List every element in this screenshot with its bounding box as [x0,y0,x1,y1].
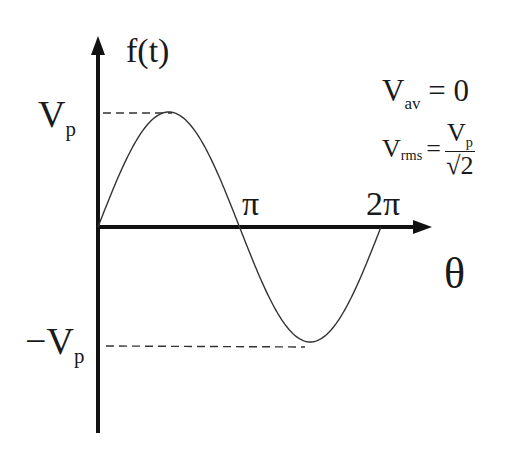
vrms-main: V [382,136,401,162]
vp-label-main: V [38,93,65,135]
y-axis-arrow-icon [91,36,105,55]
x-axis-arrow-icon [413,220,432,234]
vav-main: V [382,73,404,108]
tick-2pi-label: 2π [366,187,400,221]
vav-sub: av [404,94,420,113]
vrms-num-main: V [447,118,466,147]
y-axis-label-f: f [126,32,137,69]
neg-vp-label-sub: p [74,344,84,368]
vp-label-sub: p [65,117,75,141]
neg-vp-label: −Vp [25,322,84,367]
x-axis-label: θ [444,252,465,296]
vrms-num-sub: p [466,134,473,150]
vrms-denominator: √2 [446,152,473,179]
y-axis-label-paren: (t) [137,32,169,69]
vrms-fraction: Vp √2 [445,120,475,179]
vrms-sub: rms [401,148,422,162]
vav-rhs: = 0 [428,73,469,108]
neg-vp-label-main: −V [25,320,74,362]
vrms-eq: = [426,136,441,162]
vav-formula: Vav = 0 [382,75,469,112]
vp-label: Vp [38,95,76,140]
vrms-numerator: Vp [445,120,475,152]
tick-pi-label: π [242,187,259,221]
y-axis-label: f(t) [126,34,169,68]
vrms-formula: Vrms = Vp √2 [382,120,475,179]
sine-diagram [0,0,512,457]
neg-vp-guide-line [106,346,305,347]
